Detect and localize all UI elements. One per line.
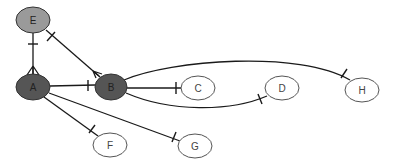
node-d: D [265,76,299,100]
edge-b-h [124,61,350,80]
node-label: E [30,15,37,26]
edge-a-g-one-marker [172,132,176,142]
node-label: F [107,140,113,151]
node-e: E [16,7,50,33]
node-label: D [278,83,285,94]
node-f: F [93,133,127,157]
node-a: A [16,74,50,100]
node-label: B [108,82,115,93]
node-h: H [345,78,379,102]
node-c: C [181,76,215,100]
node-label: A [30,82,37,93]
er-diagram: EABCDHFG [0,0,394,166]
nodes: EABCDHFG [16,7,379,158]
node-b: B [95,74,127,100]
node-label: C [194,83,201,94]
edge-b-e [46,30,100,77]
node-g: G [178,134,212,158]
node-label: H [358,85,365,96]
node-label: G [191,141,199,152]
edge-a-f [44,97,98,136]
